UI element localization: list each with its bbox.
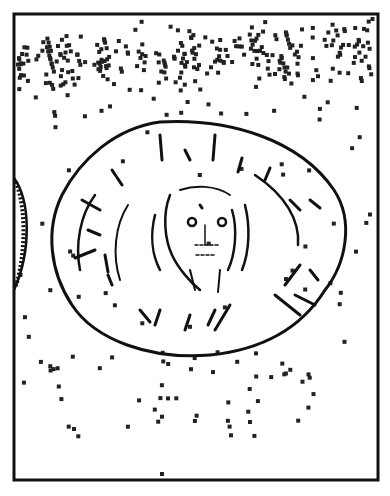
speck xyxy=(257,77,261,81)
speck xyxy=(56,366,60,370)
speck xyxy=(268,73,272,77)
speck xyxy=(107,55,111,59)
speck xyxy=(59,74,63,78)
speck xyxy=(25,53,29,57)
speck xyxy=(72,427,76,431)
speck xyxy=(98,69,102,73)
speck xyxy=(59,397,63,401)
speck xyxy=(22,74,26,78)
speck xyxy=(217,54,221,58)
speck xyxy=(176,28,180,32)
speck xyxy=(331,23,335,27)
speck xyxy=(222,61,226,65)
speck xyxy=(98,366,102,370)
speck xyxy=(269,375,273,379)
speck xyxy=(250,62,254,66)
speck xyxy=(254,375,258,379)
speck xyxy=(165,113,169,117)
speck xyxy=(64,51,68,55)
speck xyxy=(263,20,267,24)
speck xyxy=(198,88,202,92)
speck xyxy=(48,45,52,49)
speck xyxy=(143,60,147,64)
speck xyxy=(329,79,333,83)
speck xyxy=(353,55,357,59)
speck xyxy=(135,64,139,68)
speck xyxy=(198,173,202,177)
speck xyxy=(366,41,370,45)
speck xyxy=(195,414,199,418)
speck xyxy=(137,50,141,54)
speck xyxy=(137,398,141,402)
speck xyxy=(303,245,307,249)
speck xyxy=(140,52,144,56)
speck xyxy=(158,396,162,400)
speck xyxy=(233,39,237,43)
speck xyxy=(195,67,199,71)
speck xyxy=(362,27,366,31)
speck xyxy=(178,76,182,80)
speck xyxy=(289,82,293,86)
speck xyxy=(248,33,252,37)
speck xyxy=(273,33,277,37)
speck xyxy=(71,77,75,81)
speck xyxy=(299,44,303,48)
speck xyxy=(364,55,368,59)
speck xyxy=(192,57,196,61)
speck xyxy=(193,419,197,423)
speck xyxy=(347,43,351,47)
speck xyxy=(100,109,104,113)
speck xyxy=(253,39,257,43)
speck xyxy=(52,110,56,114)
speck xyxy=(326,31,330,35)
inner-ring xyxy=(255,175,298,245)
speck xyxy=(207,102,211,106)
speck xyxy=(359,76,363,80)
speck xyxy=(65,44,69,48)
speck xyxy=(186,100,190,104)
speck xyxy=(284,32,288,36)
speck xyxy=(112,82,116,86)
speck xyxy=(49,369,53,373)
speck xyxy=(139,88,143,92)
speck xyxy=(179,71,183,75)
speck xyxy=(285,66,289,70)
speck xyxy=(153,408,157,412)
speck xyxy=(251,43,255,47)
speck xyxy=(157,60,161,64)
speck xyxy=(339,291,343,295)
speck xyxy=(161,359,165,363)
speck xyxy=(104,291,108,295)
speck xyxy=(183,52,187,56)
speck xyxy=(189,367,193,371)
speck xyxy=(65,34,69,38)
speck xyxy=(219,112,223,116)
speck xyxy=(26,59,30,63)
speck xyxy=(343,29,347,33)
speck xyxy=(140,20,144,24)
speck xyxy=(68,250,72,254)
speck xyxy=(249,38,253,42)
speck xyxy=(160,383,164,387)
speck xyxy=(106,77,110,81)
speck xyxy=(56,44,60,48)
speck xyxy=(66,70,70,74)
speck xyxy=(166,362,170,366)
speck xyxy=(261,30,265,34)
speck xyxy=(203,35,207,39)
speck xyxy=(121,159,125,163)
speck xyxy=(254,351,258,355)
speck xyxy=(166,396,170,400)
speck xyxy=(113,303,117,307)
speck xyxy=(281,173,285,177)
speck xyxy=(360,59,364,63)
speck xyxy=(192,46,196,50)
speck xyxy=(70,69,74,73)
speck xyxy=(357,39,361,43)
speck xyxy=(215,58,219,62)
speck xyxy=(34,57,38,61)
speck xyxy=(338,71,342,75)
speck xyxy=(157,53,161,57)
speck xyxy=(75,53,79,57)
speck xyxy=(25,46,29,50)
